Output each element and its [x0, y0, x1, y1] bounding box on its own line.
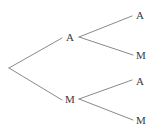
tree-edge: [79, 37, 133, 55]
tree-node-label-leaf-am: M: [136, 50, 146, 61]
tree-edge: [79, 80, 132, 99]
tree-node-label-leaf-ma: A: [136, 76, 144, 87]
tree-edge: [79, 99, 133, 120]
tree-node-label-n-a: A: [66, 32, 74, 43]
tree-node-label-leaf-aa: A: [136, 10, 144, 21]
tree-edge: [79, 16, 132, 37]
tree-edge: [9, 68, 62, 100]
tree-edge: [9, 38, 62, 68]
tree-node-label-leaf-mm: M: [136, 115, 146, 126]
tree-node-label-n-m: M: [65, 94, 75, 105]
binary-tree-diagram: AMAMAM: [0, 0, 167, 139]
